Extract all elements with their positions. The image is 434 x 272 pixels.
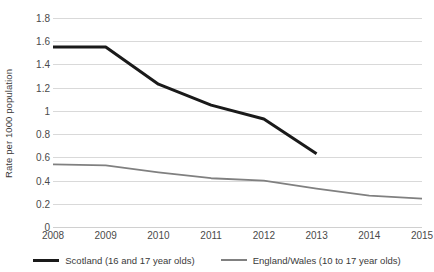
x-axis-tick: 2013 (305, 230, 327, 241)
y-axis-tick: 1 (18, 105, 50, 116)
x-axis-tick: 2008 (42, 230, 64, 241)
legend-swatch-icon (33, 259, 59, 262)
x-axis-tick: 2009 (95, 230, 117, 241)
y-axis-label: Rate per 1000 population (4, 68, 15, 177)
legend-label: England/Wales (10 to 17 year olds) (253, 255, 401, 266)
y-axis-tick: 0.6 (18, 152, 50, 163)
series-line-1 (53, 47, 317, 154)
legend-swatch-icon (221, 259, 247, 261)
y-axis-tick: 1.8 (18, 13, 50, 24)
y-axis-tick: 0.8 (18, 129, 50, 140)
x-axis-tick-labels: 20082009201020112012201320142015 (53, 230, 422, 246)
gridline (53, 227, 422, 228)
x-axis-tick: 2012 (253, 230, 275, 241)
x-axis-tick: 2015 (411, 230, 433, 241)
x-axis-tick: 2010 (147, 230, 169, 241)
x-axis-tick: 2014 (358, 230, 380, 241)
legend-item-1[interactable]: Scotland (16 and 17 year olds) (33, 255, 194, 266)
series-lines (53, 18, 422, 227)
legend-item-2[interactable]: England/Wales (10 to 17 year olds) (221, 255, 401, 266)
y-axis-tick: 1.6 (18, 36, 50, 47)
legend-label: Scotland (16 and 17 year olds) (65, 255, 194, 266)
y-axis-tick: 0.4 (18, 175, 50, 186)
plot-area (53, 18, 422, 227)
series-line-2 (53, 164, 422, 198)
y-axis-tick: 0.2 (18, 198, 50, 209)
line-chart: Rate per 1000 population 00.20.40.60.811… (0, 0, 434, 272)
x-axis-tick: 2011 (200, 230, 222, 241)
y-axis-tick: 1.4 (18, 59, 50, 70)
chart-legend: Scotland (16 and 17 year olds)England/Wa… (0, 250, 434, 270)
y-axis-tick: 1.2 (18, 82, 50, 93)
